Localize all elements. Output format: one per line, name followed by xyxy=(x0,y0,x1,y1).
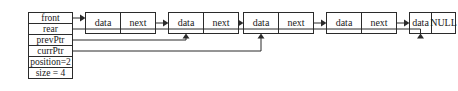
pointer-front-to-node-1 xyxy=(73,15,86,22)
state-row-size-label: size = 4 xyxy=(36,68,66,78)
list-node-3-next-label: next xyxy=(287,17,304,28)
pointer-front-arrowhead-icon xyxy=(80,15,86,22)
list-node-3: data next xyxy=(244,13,314,34)
pointer-rear-arrowhead-icon xyxy=(417,34,424,39)
state-row-position-label: position=2 xyxy=(30,57,71,67)
list-node-2: data next xyxy=(169,13,239,34)
pointer-currptr-arrowhead-icon xyxy=(258,34,265,39)
state-row-currptr-label: currPtr xyxy=(37,46,64,56)
state-row-front-label: front xyxy=(41,13,60,23)
pointer-prevptr-to-node-2 xyxy=(73,34,190,41)
list-node-4: data next xyxy=(327,13,397,34)
link-node-2-to-node-3 xyxy=(238,20,244,27)
link-node-3-to-node-4 xyxy=(314,20,327,27)
link-4-5-arrowhead-icon xyxy=(404,20,410,27)
link-node-4-to-node-5 xyxy=(397,20,410,27)
state-row-prevptr-label: prevPtr xyxy=(37,35,66,45)
list-node-2-next-label: next xyxy=(212,17,229,28)
list-node-1: data next xyxy=(86,13,156,34)
list-node-3-data-label: data xyxy=(253,17,270,28)
list-node-1-next-label: next xyxy=(129,17,146,28)
pointer-currptr-to-node-3 xyxy=(73,34,265,52)
list-node-5: data NULL xyxy=(410,13,457,34)
state-row-rear-label: rear xyxy=(43,24,59,34)
list-node-5-data-label: data xyxy=(412,17,429,28)
list-node-4-data-label: data xyxy=(336,17,353,28)
pointer-prevptr-arrowhead-icon xyxy=(183,34,190,39)
list-node-4-next-label: next xyxy=(370,17,387,28)
link-1-2-arrowhead-icon xyxy=(163,20,169,27)
diagram-canvas: front rear prevPtr currPtr position=2 si… xyxy=(0,0,458,91)
pointer-prevptr-line xyxy=(73,38,187,40)
list-node-5-null-label: NULL xyxy=(430,17,457,28)
link-node-1-to-node-2 xyxy=(156,20,169,27)
link-3-4-arrowhead-icon xyxy=(321,20,327,27)
list-node-2-data-label: data xyxy=(178,17,195,28)
link-2-3-arrowhead-icon xyxy=(238,20,244,27)
linked-list-diagram: front rear prevPtr currPtr position=2 si… xyxy=(0,0,458,91)
list-node-1-data-label: data xyxy=(95,17,112,28)
list-state-table: front rear prevPtr currPtr position=2 si… xyxy=(29,13,73,79)
